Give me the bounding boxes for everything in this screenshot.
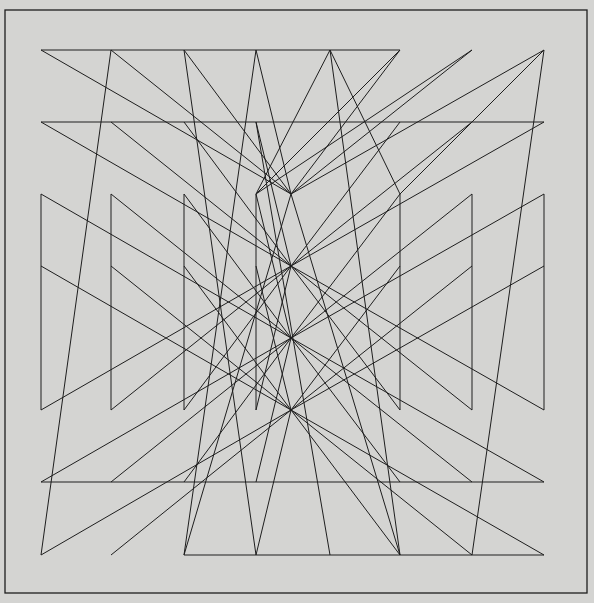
line-segment [256, 194, 291, 338]
line-segment [184, 338, 291, 482]
line-segment [291, 338, 400, 482]
line-segment [256, 338, 291, 482]
line-segment [291, 194, 472, 338]
line-segment [291, 194, 400, 555]
line-segment [41, 338, 291, 482]
line-segment [256, 122, 291, 266]
line-segment [111, 194, 291, 338]
line-segment [291, 122, 472, 266]
line-segment [291, 194, 400, 338]
line-segment [184, 194, 291, 555]
frame-border [5, 10, 587, 593]
line-segment [184, 194, 291, 338]
line-segment [472, 50, 544, 555]
line-segment [291, 122, 400, 266]
line-segment [111, 122, 291, 266]
line-segment [330, 50, 400, 555]
line-segment [111, 338, 291, 482]
line-segment [41, 50, 111, 555]
line-artwork [0, 0, 594, 603]
line-segments [41, 50, 544, 555]
line-segment [184, 122, 291, 266]
line-segment [291, 338, 472, 482]
